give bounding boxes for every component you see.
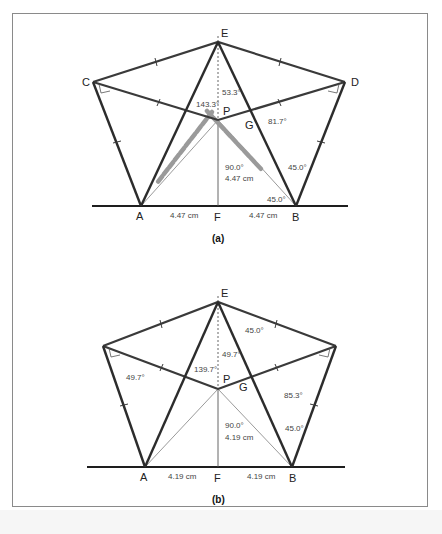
figure-b: E P G A F B 45.0° 49.7° 139.7° 49.7° 85.…	[87, 287, 345, 505]
point-label-B: B	[292, 211, 299, 223]
angle-label: 90.0°	[225, 163, 244, 172]
angle-label: 85.3°	[284, 391, 303, 400]
point-label-C: C	[82, 76, 90, 88]
line-CA-b	[103, 346, 145, 467]
line-DB-b	[292, 346, 336, 467]
length-label: 4.19 cm	[247, 472, 276, 481]
figure-caption-a: (a)	[212, 233, 224, 244]
top-edges-b	[103, 302, 336, 346]
length-label: 4.19 cm	[225, 433, 254, 442]
point-label-A: A	[136, 210, 144, 222]
point-label-E: E	[221, 287, 228, 299]
angle-label: 90.0°	[225, 421, 244, 430]
point-label-G: G	[239, 381, 248, 393]
angle-label: 45.0°	[245, 326, 264, 335]
figure-caption-b: (b)	[212, 494, 225, 505]
angle-label: 143.3°	[196, 100, 219, 109]
point-label-F: F	[214, 211, 221, 223]
length-label: 4.47 cm	[225, 174, 254, 183]
length-label: 4.19 cm	[168, 472, 197, 481]
point-label-G: G	[245, 119, 254, 131]
point-label-E: E	[221, 27, 228, 39]
geometry-diagram: E C D P G A F B 53.3° 143.3° 81.7° 90.0°…	[0, 0, 442, 534]
angle-label: 49.7°	[222, 350, 241, 359]
angle-label: 139.7°	[194, 365, 217, 374]
figure-a: E C D P G A F B 53.3° 143.3° 81.7° 90.0°…	[82, 27, 359, 244]
angle-label: 81.7°	[268, 117, 287, 126]
point-label-B: B	[289, 472, 296, 484]
point-label-P: P	[223, 105, 230, 117]
line-PA-a	[141, 120, 218, 206]
top-edges-a	[93, 42, 345, 82]
line-EA-a	[141, 42, 218, 206]
line-DB-a	[296, 82, 345, 206]
point-label-P: P	[223, 373, 230, 385]
line-CA-a	[93, 82, 141, 206]
angle-label: 45.0°	[285, 424, 304, 433]
angle-label: 53.3°	[222, 88, 241, 97]
dashed-highlight-left-a	[157, 112, 212, 183]
length-label: 4.47 cm	[249, 211, 278, 220]
point-label-D: D	[351, 76, 359, 88]
point-label-A: A	[140, 471, 148, 483]
point-label-F: F	[214, 472, 221, 484]
length-label: 4.47 cm	[170, 211, 199, 220]
angle-label: 45.0°	[267, 195, 286, 204]
line-PA-b	[145, 389, 218, 467]
angle-label: 45.0°	[288, 163, 307, 172]
angle-label: 49.7°	[126, 373, 145, 382]
